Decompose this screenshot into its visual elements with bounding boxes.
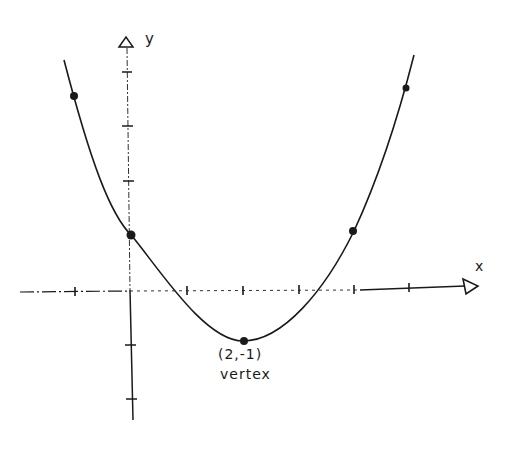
parabola-curve <box>64 55 414 341</box>
vertex-label: vertex <box>220 366 271 382</box>
point-vertex <box>240 337 248 345</box>
y-axis <box>119 37 137 420</box>
point-5-3p5 <box>403 85 410 92</box>
x-axis-ticks <box>75 283 409 296</box>
x-axis-label: x <box>475 258 483 274</box>
point-4-1 <box>349 227 357 235</box>
x-axis-arrow-icon <box>463 279 478 294</box>
y-axis-arrow-icon <box>119 37 133 47</box>
vertex-coordinate-label: (2,-1) <box>218 346 262 362</box>
point-0-1 <box>127 231 136 240</box>
data-points <box>70 85 410 346</box>
y-axis-label: y <box>145 30 154 48</box>
parabola-graph <box>0 0 505 457</box>
point-neg1-3p5 <box>70 92 78 100</box>
x-axis <box>20 279 478 296</box>
